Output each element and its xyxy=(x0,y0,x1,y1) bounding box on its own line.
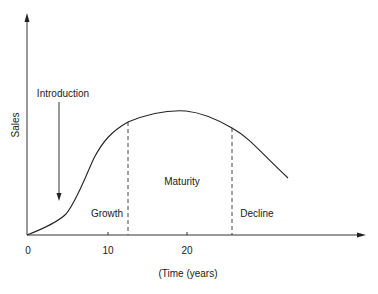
growth-label: Growth xyxy=(91,208,123,220)
introduction-label: Introduction xyxy=(37,88,89,100)
y-axis-label: Sales xyxy=(10,112,21,137)
x-tick-label-20: 20 xyxy=(181,245,192,257)
introduction-arrowhead-icon xyxy=(57,193,62,201)
x-tick-label-0: 0 xyxy=(25,245,31,257)
x-axis-arrow-icon xyxy=(357,233,366,238)
x-axis-label: (Time (years) xyxy=(158,268,217,280)
y-axis-arrow-icon xyxy=(25,13,30,22)
decline-label: Decline xyxy=(240,208,273,220)
maturity-label: Maturity xyxy=(164,176,200,188)
x-tick-label-10: 10 xyxy=(102,245,113,257)
